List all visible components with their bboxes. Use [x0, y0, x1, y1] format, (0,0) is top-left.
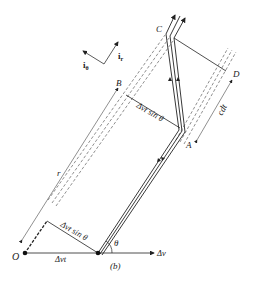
- outgoing-lines: [166, 15, 185, 38]
- dv-label: Δv: [156, 248, 166, 258]
- kinked-field-lines: [98, 34, 185, 255]
- i-r-label: ir: [118, 51, 124, 62]
- i-theta-arrow-icon: [83, 51, 104, 64]
- figure-caption: (b): [110, 261, 121, 271]
- radiation-diagram: ir iθ r cdt Δvt sin θ Δvt sin: [0, 0, 253, 290]
- point-d-label: D: [232, 69, 240, 79]
- dv-r-sin-theta-top-label: Δvt sin θ: [134, 100, 165, 124]
- theta-label: θ: [114, 238, 119, 248]
- dv-t-label: Δvt: [54, 254, 67, 264]
- point-o-label: O: [12, 251, 19, 262]
- point-charge: [96, 251, 101, 256]
- i-r-arrow-icon: [104, 42, 118, 64]
- point-b-label: B: [116, 78, 122, 88]
- unit-vectors: [83, 42, 118, 64]
- near-origin-lines: [27, 221, 47, 250]
- i-theta-label: iθ: [83, 60, 89, 71]
- point-o: [23, 251, 28, 256]
- r-arrow: [22, 88, 118, 240]
- point-c-label: C: [156, 24, 163, 34]
- point-a-label: A: [185, 140, 192, 150]
- dashed-field-lines-left: [48, 35, 173, 206]
- c-d-line: [174, 38, 226, 71]
- cdt-label: cdt: [215, 102, 229, 117]
- r-label: r: [57, 168, 61, 178]
